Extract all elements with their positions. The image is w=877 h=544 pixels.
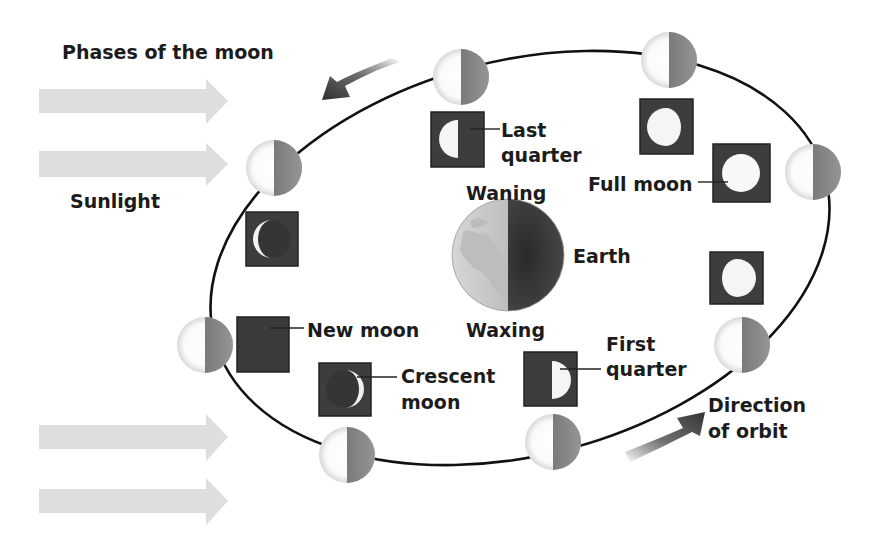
sunlight-arrows bbox=[39, 79, 228, 525]
orbit-direction-arrow-bottom bbox=[625, 412, 705, 462]
full-moon-label: Full moon bbox=[588, 172, 693, 196]
earth-icon bbox=[452, 195, 568, 315]
waning-label: Waning bbox=[466, 181, 546, 205]
phase-crescent-moon-icon bbox=[319, 363, 371, 416]
diagram-graphics bbox=[0, 0, 877, 544]
moon-phases-diagram: Phases of the moon Sunlight Last quarter… bbox=[0, 0, 877, 544]
phase-new-moon-icon bbox=[237, 317, 289, 372]
orbit-moon-top bbox=[433, 49, 489, 105]
first-quarter-label-line1: First bbox=[606, 332, 655, 356]
last-quarter-label-line1: Last bbox=[501, 118, 546, 142]
direction-of-orbit-label-line2: of orbit bbox=[708, 419, 788, 443]
last-quarter-label-line2: quarter bbox=[501, 143, 582, 167]
orbit-moon-bottom-right bbox=[525, 414, 581, 470]
diagram-title: Phases of the moon bbox=[62, 40, 274, 64]
orbit-moon-top-right bbox=[641, 32, 697, 88]
phase-first-quarter-icon bbox=[524, 352, 577, 406]
orbit-moon-lower-right bbox=[714, 317, 770, 373]
new-moon-label: New moon bbox=[307, 318, 419, 342]
orbit-direction-arrow-top bbox=[322, 58, 400, 100]
first-quarter-label-line2: quarter bbox=[606, 357, 687, 381]
orbit-moon-bottom-left bbox=[319, 427, 375, 483]
phase-waning-crescent-icon bbox=[246, 212, 298, 266]
orbit-moon-left bbox=[177, 317, 233, 373]
direction-of-orbit-label-line1: Direction bbox=[708, 393, 806, 417]
orbit-moon-right bbox=[785, 144, 841, 200]
orbit-moon-top-left bbox=[246, 140, 302, 196]
sunlight-arrow-4 bbox=[39, 478, 228, 525]
sunlight-arrow-3 bbox=[39, 414, 228, 461]
crescent-moon-label-line2: moon bbox=[401, 390, 460, 414]
sunlight-arrow-1 bbox=[39, 79, 228, 124]
earth-label: Earth bbox=[573, 244, 631, 268]
phase-waning-gibbous-icon bbox=[640, 99, 693, 154]
phase-last-quarter-icon bbox=[431, 112, 484, 167]
crescent-moon-label-line1: Crescent bbox=[401, 364, 495, 388]
sunlight-label: Sunlight bbox=[70, 189, 160, 213]
waxing-label: Waxing bbox=[466, 318, 545, 342]
phase-waxing-gibbous-icon bbox=[710, 252, 763, 304]
phase-full-moon-icon bbox=[713, 144, 770, 202]
sunlight-arrow-2 bbox=[39, 143, 228, 186]
